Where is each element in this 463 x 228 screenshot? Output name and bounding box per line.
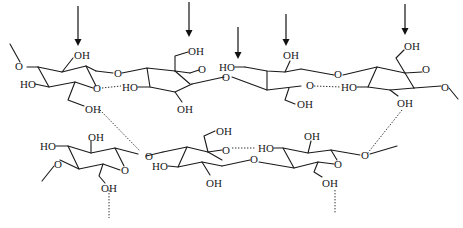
label-ho: HO	[152, 160, 168, 172]
label-ring-o: O	[222, 144, 230, 156]
label-oh: OH	[216, 125, 232, 137]
label-ho: HO	[219, 61, 235, 73]
label-glycosidic-o: O	[334, 68, 342, 80]
hydrogen-bond	[314, 86, 341, 87]
label-oh: OH	[322, 177, 338, 189]
label-o: O	[441, 81, 449, 93]
top-ring-1	[10, 44, 113, 106]
arrow-down-icon	[75, 6, 82, 46]
label-glycosidic-o: O	[250, 153, 258, 165]
label-ring-o: O	[93, 82, 101, 94]
label-oh: OH	[404, 40, 420, 52]
top-ring-2	[122, 52, 224, 102]
label-o: O	[15, 60, 23, 72]
label-o: O	[54, 158, 62, 170]
label-ring-o: O	[306, 79, 314, 91]
label-oh: OH	[85, 103, 101, 115]
label-ho: HO	[341, 81, 357, 93]
label-ring-o: O	[422, 63, 430, 75]
hydrogen-bond	[102, 86, 121, 88]
top-ring-3	[232, 61, 334, 104]
label-ring-o: O	[198, 63, 206, 75]
label-ring-o: O	[121, 164, 129, 176]
label-oh: OH	[188, 45, 204, 57]
label-ho: HO	[40, 140, 56, 152]
label-oh: OH	[206, 177, 222, 189]
arrow-down-icon	[186, 2, 193, 37]
arrow-down-icon	[402, 4, 409, 35]
label-ho: HO	[20, 78, 36, 90]
label-oh: OH	[304, 130, 320, 142]
label-oh: OH	[177, 103, 193, 115]
arrow-down-icon	[283, 14, 290, 46]
hydrogen-bond	[100, 110, 140, 151]
top-chain: OH O HO O OH O OH O HO OH O	[10, 40, 458, 115]
label-ho: HO	[258, 142, 274, 154]
bottom-ring-3	[259, 141, 397, 177]
bottom-ring-2	[163, 131, 250, 175]
bottom-chain: HO OH O O OH O OH O HO OH O	[40, 125, 397, 218]
hydrogen-bond	[367, 110, 402, 154]
label-glycosidic-o: O	[114, 67, 122, 79]
label-ho: HO	[122, 81, 138, 93]
label-oh: OH	[397, 97, 413, 109]
arrow-down-icon	[235, 27, 242, 59]
label-oh: OH	[88, 131, 104, 143]
arrows	[75, 2, 409, 59]
label-o: O	[361, 149, 369, 161]
label-oh: OH	[101, 182, 117, 194]
label-oh: OH	[74, 49, 90, 61]
label-ring-o: O	[334, 158, 342, 170]
label-oh: OH	[297, 98, 313, 110]
label-oh: OH	[283, 49, 299, 61]
cellulose-hydrogen-bond-diagram: OH O HO O OH O OH O HO OH O	[0, 0, 463, 228]
